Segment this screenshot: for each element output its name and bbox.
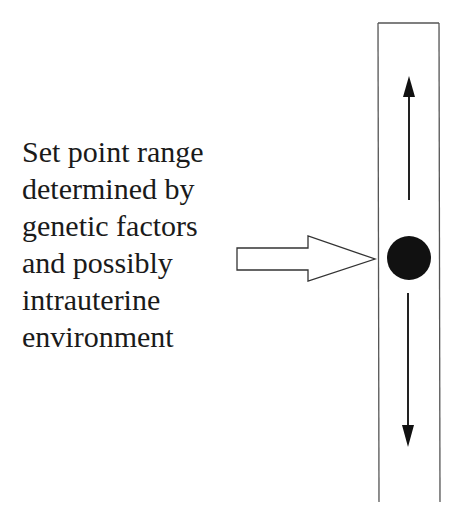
diagram-canvas <box>0 0 472 521</box>
arrow-up-icon <box>403 76 415 200</box>
set-point-dot-icon <box>387 236 431 280</box>
block-arrow-icon <box>237 236 375 281</box>
arrow-down-icon <box>402 293 414 447</box>
